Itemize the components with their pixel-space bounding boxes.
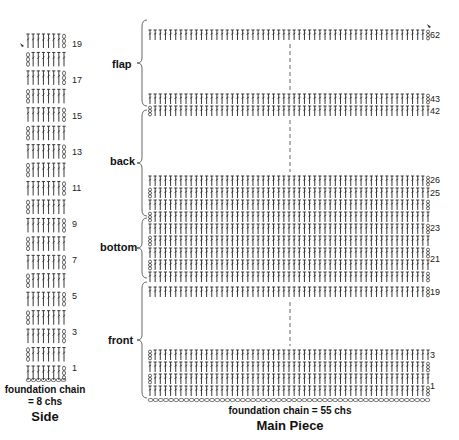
main-row-label-43: 43: [430, 94, 440, 104]
main-title: Main Piece: [150, 418, 430, 433]
section-label-bottom: bottom: [100, 241, 137, 253]
main-caption: foundation chain = 55 chs: [150, 405, 430, 417]
main-row-label-25: 25: [430, 188, 440, 198]
main-row-label-3: 3: [430, 350, 435, 360]
main-row-label-1: 1: [430, 381, 435, 391]
main-row-label-62: 62: [430, 30, 440, 40]
section-label-back: back: [110, 155, 135, 167]
main-row-label-23: 23: [430, 223, 440, 233]
main-row-label-21: 21: [430, 254, 440, 264]
main-row-label-19: 19: [430, 287, 440, 297]
main-stitch-grid: [0, 0, 459, 440]
section-label-flap: flap: [112, 58, 132, 70]
section-label-front: front: [108, 334, 133, 346]
main-row-label-42: 42: [430, 106, 440, 116]
main-row-label-26: 26: [430, 175, 440, 185]
